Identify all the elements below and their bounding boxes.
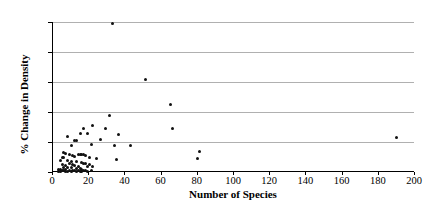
x-tick-label-180: 180 — [363, 175, 393, 186]
data-point — [95, 157, 98, 160]
data-point — [73, 155, 76, 158]
x-tick-mark-20 — [88, 172, 89, 175]
gridline-y-50 — [53, 142, 414, 143]
data-point — [88, 156, 91, 159]
data-point — [79, 132, 82, 135]
x-tick-label-160: 160 — [327, 175, 357, 186]
data-point — [104, 127, 107, 130]
scatter-chart-figure: % Change in Density 050100150200250 0204… — [0, 0, 429, 209]
data-point — [395, 136, 398, 139]
x-tick-mark-0 — [52, 172, 53, 175]
data-point — [111, 22, 114, 25]
data-point — [68, 153, 71, 156]
data-point — [99, 138, 102, 141]
x-tick-label-140: 140 — [290, 175, 320, 186]
x-tick-label-120: 120 — [254, 175, 284, 186]
data-point — [75, 170, 78, 173]
gridline-y-150 — [53, 82, 414, 83]
data-point — [84, 154, 87, 157]
data-point — [91, 124, 94, 127]
data-point — [70, 170, 73, 173]
gridline-y-250 — [53, 22, 414, 23]
x-axis-title: Number of Species — [52, 188, 414, 200]
data-point — [90, 169, 93, 172]
data-point — [64, 152, 67, 155]
data-point — [62, 156, 65, 159]
x-tick-mark-200 — [414, 172, 415, 175]
x-tick-label-40: 40 — [109, 175, 139, 186]
data-point — [59, 159, 62, 162]
plot-area — [52, 22, 414, 172]
data-point — [86, 132, 89, 135]
data-point — [171, 127, 174, 130]
data-point — [113, 144, 116, 147]
data-point — [68, 162, 71, 165]
x-tick-label-60: 60 — [146, 175, 176, 186]
data-point — [115, 158, 118, 161]
data-point — [144, 78, 147, 81]
x-tick-mark-100 — [233, 172, 234, 175]
x-tick-mark-180 — [378, 172, 379, 175]
data-point — [59, 170, 62, 173]
data-point — [82, 127, 85, 130]
data-point — [90, 143, 93, 146]
x-tick-mark-160 — [342, 172, 343, 175]
x-tick-mark-140 — [305, 172, 306, 175]
data-point — [75, 160, 78, 163]
gridline-y-200 — [53, 52, 414, 53]
gridline-y-100 — [53, 112, 414, 113]
data-point — [169, 103, 172, 106]
x-tick-mark-40 — [124, 172, 125, 175]
data-point — [117, 133, 120, 136]
x-tick-label-100: 100 — [218, 175, 248, 186]
x-tick-mark-60 — [161, 172, 162, 175]
x-tick-label-20: 20 — [73, 175, 103, 186]
data-point — [196, 157, 199, 160]
data-point — [129, 144, 132, 147]
data-point — [70, 144, 73, 147]
x-tick-mark-120 — [269, 172, 270, 175]
data-point — [66, 135, 69, 138]
data-point — [88, 163, 91, 166]
data-point — [108, 114, 111, 117]
x-tick-label-0: 0 — [37, 175, 67, 186]
data-point — [198, 150, 201, 153]
x-tick-mark-80 — [197, 172, 198, 175]
data-point — [91, 165, 94, 168]
x-tick-label-200: 200 — [399, 175, 429, 186]
x-tick-label-80: 80 — [182, 175, 212, 186]
